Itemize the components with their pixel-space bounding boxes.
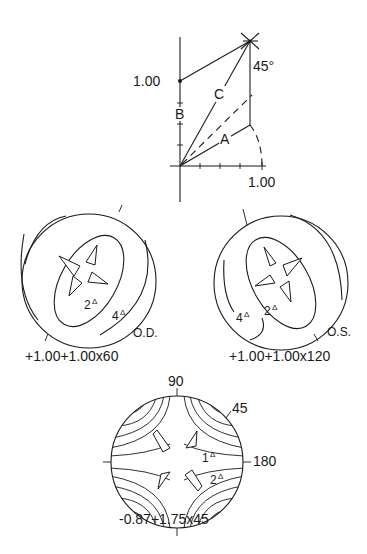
axis-label-180: 180 bbox=[253, 453, 277, 469]
eye-label-od: O.D. bbox=[133, 326, 158, 340]
combined-plot: 90 45 180 bbox=[103, 373, 277, 536]
contour-2-unit: Δ bbox=[272, 303, 278, 312]
od-prism-arrows bbox=[59, 245, 108, 296]
prism-triangle-icon bbox=[264, 247, 276, 266]
contour-4-unit: Δ bbox=[120, 308, 126, 317]
contour-4-unit: Δ bbox=[244, 310, 250, 319]
os-formula: +1.00+1.00x120 bbox=[229, 348, 330, 364]
axis-label-45: 45 bbox=[232, 400, 248, 416]
vector-a bbox=[180, 125, 250, 166]
eye-label-os: O.S. bbox=[327, 325, 351, 339]
vector-diagram: B 1.00 1.00 C A 45° bbox=[133, 33, 282, 202]
od-formula: +1.00+1.00x60 bbox=[25, 348, 119, 364]
contour-4-left bbox=[224, 260, 234, 312]
os-plot: 2 Δ 4 Δ O.S. +1.00+1.00x120 bbox=[214, 209, 351, 364]
od-plot: 2 Δ 4 Δ O.D. +1.00+1.00x60 bbox=[21, 205, 158, 364]
contour-1-unit: Δ bbox=[210, 450, 216, 459]
prism-triangle-icon bbox=[186, 431, 197, 448]
prism-triangle-icon bbox=[88, 272, 108, 284]
axis-tick bbox=[243, 209, 247, 225]
prism-triangle-icon bbox=[86, 245, 97, 265]
contour-4-label: 4 bbox=[112, 309, 119, 323]
contour-1-label: 1 bbox=[202, 451, 209, 465]
vector-c-label: C bbox=[214, 86, 224, 102]
x-axis-value-label: 1.00 bbox=[248, 174, 275, 190]
contour-2 bbox=[232, 226, 330, 341]
prism-diagram-figure: B 1.00 1.00 C A 45° bbox=[0, 0, 367, 554]
contour-2-label: 2 bbox=[210, 473, 217, 487]
contour-2-unit: Δ bbox=[218, 472, 224, 481]
axis-tick-45 bbox=[226, 411, 231, 418]
axis-tick bbox=[119, 205, 122, 212]
axis-tick bbox=[45, 334, 48, 341]
vector-a-label: A bbox=[220, 131, 230, 147]
contour-2-label: 2 bbox=[264, 304, 271, 318]
prism-triangle-icon bbox=[255, 275, 275, 286]
prism-shape-icon bbox=[185, 470, 202, 491]
prism-triangle-icon bbox=[69, 276, 82, 296]
contour-2-unit: Δ bbox=[92, 297, 98, 306]
prism-triangle-icon bbox=[283, 258, 302, 276]
contour-4-left bbox=[21, 234, 38, 320]
vector-c bbox=[180, 41, 250, 166]
contour-4-lower bbox=[250, 318, 264, 340]
contour-2-label: 2 bbox=[84, 298, 91, 312]
axis-label-90: 90 bbox=[168, 373, 184, 389]
resultant-parallelogram-edge bbox=[180, 41, 250, 81]
combined-plot-circle bbox=[111, 396, 243, 528]
contour-4-label: 4 bbox=[236, 311, 243, 325]
unit-arc-dashed bbox=[250, 125, 262, 166]
prism-shape-icon bbox=[153, 430, 170, 452]
prism-triangle-icon bbox=[280, 281, 291, 302]
combined-formula: -0.87+1.75x45 bbox=[119, 511, 209, 527]
vector-b-label: B bbox=[175, 106, 184, 122]
combined-prism-arrows bbox=[153, 430, 202, 491]
angle-label: 45° bbox=[253, 58, 274, 74]
y-axis-value-label: 1.00 bbox=[133, 73, 160, 89]
prism-triangle-icon bbox=[158, 472, 170, 489]
